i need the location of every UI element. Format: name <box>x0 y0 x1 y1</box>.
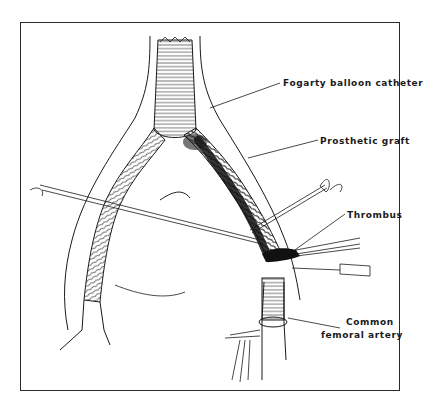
right-femoral-artery <box>259 278 287 380</box>
label-common: Common <box>346 317 394 328</box>
instruments <box>30 179 370 382</box>
label-fogarty-balloon-catheter: Fogarty balloon catheter <box>283 78 423 89</box>
label-femoral-artery: femoral artery <box>321 330 403 341</box>
aortic-graft-segment <box>154 37 196 138</box>
label-thrombus: Thrombus <box>347 210 403 221</box>
left-graft-limb <box>84 128 165 302</box>
balloon-icon <box>183 134 207 150</box>
label-prosthetic-graft: Prosthetic graft <box>320 136 410 147</box>
right-graft-limb <box>183 128 282 262</box>
